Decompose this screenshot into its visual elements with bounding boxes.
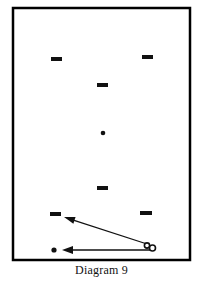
figure-caption: Diagram 9 [0, 263, 203, 278]
dot-bottom-left [51, 247, 56, 252]
circle-ball-right [150, 245, 156, 251]
dash-lower-mid [97, 186, 108, 190]
dot-center [101, 131, 106, 136]
dash-upper-mid [97, 83, 108, 87]
diagram-figure: Diagram 9 [0, 0, 203, 286]
dash-group [50, 55, 153, 216]
dot-group [51, 131, 105, 253]
arrow-diagonal-head [64, 217, 76, 224]
arrow-diagonal-shaft [73, 220, 147, 244]
arrow-horizontal-head [62, 246, 73, 254]
dash-upper-right [142, 55, 153, 59]
dash-lower-left [50, 212, 61, 216]
diagram-canvas [0, 0, 203, 286]
arrow-group [62, 217, 150, 254]
arrow-horizontal [62, 246, 150, 254]
dash-lower-right [140, 211, 152, 215]
arrow-diagonal [64, 217, 147, 244]
dash-upper-left [51, 57, 62, 61]
